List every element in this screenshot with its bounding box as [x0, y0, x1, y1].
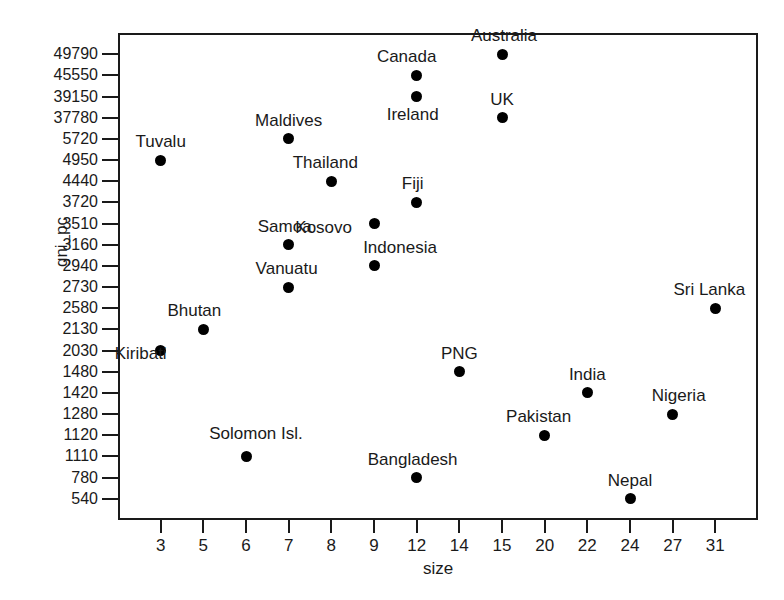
y-tick-mark — [102, 434, 118, 436]
y-tick-mark — [102, 53, 118, 55]
data-point[interactable] — [326, 176, 337, 187]
y-tick-mark — [102, 477, 118, 479]
x-tick-mark — [160, 520, 162, 533]
data-point-label: Indonesia — [363, 238, 437, 257]
data-point-label: Solomon Isl. — [209, 424, 303, 443]
data-point[interactable] — [497, 112, 508, 123]
y-tick-label: 3160 — [0, 235, 98, 254]
y-tick-mark — [102, 265, 118, 267]
y-tick-mark — [102, 307, 118, 309]
y-tick-mark — [102, 74, 118, 76]
data-point-label: Nepal — [608, 471, 652, 490]
y-tick-label: 2730 — [0, 277, 98, 296]
y-tick-label: 2030 — [0, 341, 98, 360]
y-tick-label: 540 — [0, 489, 98, 508]
y-tick-label: 1480 — [0, 362, 98, 381]
x-tick-mark — [544, 520, 546, 533]
y-tick-mark — [102, 180, 118, 182]
y-tick-label: 5720 — [0, 129, 98, 148]
y-tick-label: 1280 — [0, 404, 98, 423]
y-tick-label: 2940 — [0, 256, 98, 275]
y-tick-mark — [102, 371, 118, 373]
y-tick-label: 780 — [0, 468, 98, 487]
x-tick-mark — [373, 520, 375, 533]
y-tick-mark — [102, 223, 118, 225]
y-axis-title: gni_pc — [52, 182, 72, 302]
y-tick-label: 1120 — [0, 425, 98, 444]
data-point-label: Bhutan — [167, 301, 221, 320]
y-tick-label: 39150 — [0, 87, 98, 106]
y-tick-label: 37780 — [0, 108, 98, 127]
y-tick-mark — [102, 159, 118, 161]
data-point-label: Samoa — [258, 217, 312, 236]
data-point-label: Bangladesh — [368, 450, 458, 469]
data-point-label: Ireland — [387, 105, 439, 124]
x-tick-mark — [672, 520, 674, 533]
y-tick-label: 3720 — [0, 192, 98, 211]
data-point[interactable] — [625, 493, 636, 504]
data-point-label: Fiji — [402, 174, 424, 193]
data-point[interactable] — [539, 430, 550, 441]
data-point-label: Nigeria — [652, 386, 706, 405]
data-point-label: PNG — [441, 344, 478, 363]
x-tick-mark — [629, 520, 631, 533]
y-tick-mark — [102, 328, 118, 330]
data-point[interactable] — [369, 260, 380, 271]
y-tick-label: 49790 — [0, 44, 98, 63]
data-point-label: Maldives — [255, 111, 322, 130]
y-tick-label: 3510 — [0, 214, 98, 233]
data-point[interactable] — [369, 218, 380, 229]
data-point-label: Tuvalu — [135, 132, 185, 151]
x-tick-mark — [714, 520, 716, 533]
data-point-label: UK — [490, 90, 514, 109]
y-tick-mark — [102, 286, 118, 288]
data-point-label: Thailand — [293, 153, 358, 172]
data-point-label: Sri Lanka — [673, 280, 745, 299]
x-tick-mark — [202, 520, 204, 533]
y-tick-label: 1110 — [0, 446, 98, 465]
data-point[interactable] — [667, 409, 678, 420]
y-tick-mark — [102, 455, 118, 457]
y-tick-label: 4950 — [0, 150, 98, 169]
data-point-label: Australia — [471, 26, 537, 45]
data-point[interactable] — [411, 197, 422, 208]
data-point[interactable] — [411, 70, 422, 81]
data-point-label: Canada — [377, 47, 437, 66]
data-point[interactable] — [241, 451, 252, 462]
data-point[interactable] — [155, 155, 166, 166]
y-tick-mark — [102, 117, 118, 119]
y-tick-mark — [102, 201, 118, 203]
x-tick-label: 31 — [685, 536, 745, 556]
x-tick-mark — [245, 520, 247, 533]
data-point-label: Vanuatu — [256, 259, 318, 278]
x-tick-mark — [330, 520, 332, 533]
x-tick-mark — [501, 520, 503, 533]
y-tick-mark — [102, 96, 118, 98]
y-tick-mark — [102, 138, 118, 140]
x-tick-mark — [458, 520, 460, 533]
data-point-label: India — [569, 365, 606, 384]
data-point-label: Pakistan — [506, 407, 571, 426]
y-tick-mark — [102, 498, 118, 500]
data-point[interactable] — [497, 49, 508, 60]
y-tick-mark — [102, 392, 118, 394]
y-tick-label: 2580 — [0, 298, 98, 317]
y-tick-label: 4440 — [0, 171, 98, 190]
data-point[interactable] — [283, 282, 294, 293]
y-tick-mark — [102, 413, 118, 415]
x-tick-mark — [586, 520, 588, 533]
y-tick-label: 45550 — [0, 65, 98, 84]
x-tick-mark — [288, 520, 290, 533]
scatter-chart: 4979045550391503778057204950444037203510… — [0, 0, 784, 600]
x-axis-title: size — [118, 559, 758, 579]
data-point-label: Kiribati — [115, 343, 167, 362]
data-point[interactable] — [710, 303, 721, 314]
x-tick-mark — [416, 520, 418, 533]
data-point[interactable] — [198, 324, 209, 335]
y-tick-label: 2130 — [0, 319, 98, 338]
y-tick-label: 1420 — [0, 383, 98, 402]
y-tick-mark — [102, 244, 118, 246]
